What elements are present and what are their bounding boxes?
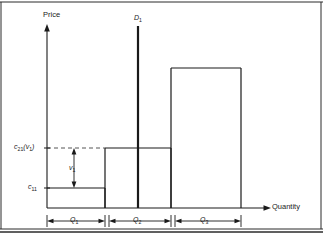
q1-arrowhead-right — [99, 219, 106, 224]
price-gap-label-v1: v1 — [69, 164, 75, 174]
quantity-segment-label-q1: Q1 — [70, 216, 78, 226]
price-level-label-c21: c21(v1) — [14, 143, 34, 153]
q1-sub: 1 — [75, 219, 78, 225]
price-gap-arrowhead-down — [72, 182, 77, 189]
demand-curve-label: D1 — [134, 14, 142, 24]
v1-sub: 1 — [73, 167, 76, 173]
c21-close-paren: ) — [32, 143, 34, 150]
price-gap-arrowhead-up — [72, 148, 77, 155]
demand-curve-label-sub: 1 — [139, 17, 142, 23]
x-axis-arrowhead — [264, 205, 272, 211]
q1-arrowhead-left — [47, 219, 54, 224]
price-level-label-c11: c11 — [28, 183, 37, 193]
q2-sub: 2 — [138, 219, 141, 225]
q3-arrowhead-right — [235, 219, 242, 224]
q3-arrowhead-left — [175, 219, 182, 224]
y-axis-arrowhead — [44, 24, 50, 32]
q2-arrowhead-left — [109, 219, 116, 224]
quantity-segment-label-q3: Q3 — [200, 216, 208, 226]
quantity-segment-label-q2: Q2 — [133, 216, 141, 226]
q3-sub: 3 — [205, 219, 208, 225]
c11-sub: 11 — [32, 186, 37, 192]
figure-frame: Price Quantity D1 c21(v1) c11 v1 Q1 Q2 Q… — [0, 0, 323, 242]
y-axis-label: Price — [43, 11, 60, 19]
q2-arrowhead-right — [165, 219, 172, 224]
x-axis-label: Quantity — [272, 203, 300, 211]
